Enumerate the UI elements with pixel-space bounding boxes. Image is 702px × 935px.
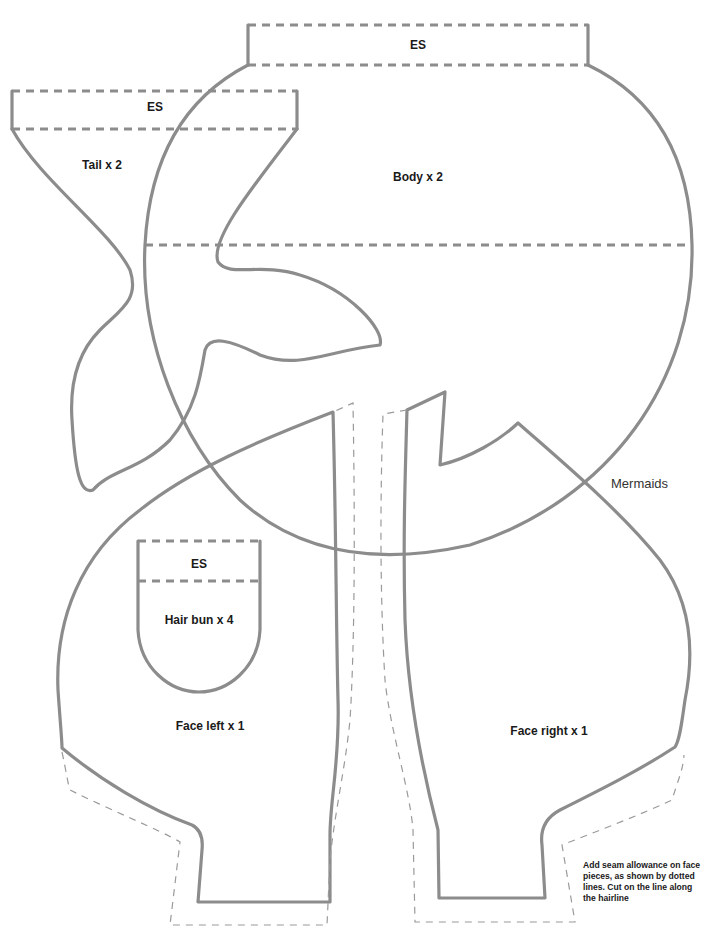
tail-label: Tail x 2 <box>82 158 122 172</box>
pattern-sheet <box>0 0 702 935</box>
title-label: Mermaids <box>611 476 668 491</box>
face-left-label: Face left x 1 <box>176 719 245 733</box>
face-right-piece <box>381 392 690 922</box>
tail-es-label: ES <box>147 100 163 114</box>
hair-bun-es-label: ES <box>191 557 207 571</box>
face-right-label: Face right x 1 <box>510 724 587 738</box>
body-piece <box>145 25 692 555</box>
body-es-label: ES <box>410 38 426 52</box>
body-label: Body x 2 <box>393 170 443 184</box>
seam-allowance-note: Add seam allowance on face pieces, as sh… <box>583 860 701 904</box>
hair-bun-label: Hair bun x 4 <box>165 613 234 627</box>
tail-piece <box>12 91 380 491</box>
